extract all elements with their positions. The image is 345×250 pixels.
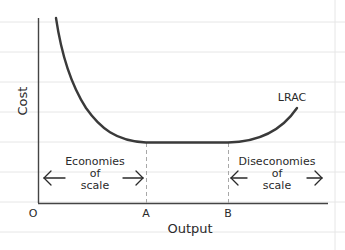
background-grid bbox=[0, 0, 345, 250]
x-axis-label: Output bbox=[167, 221, 212, 236]
arrow-left-icon bbox=[231, 171, 247, 185]
lrac-label: LRAC bbox=[278, 91, 307, 104]
lrac-diagram: Cost LRAC Economies of scale Diseconomie… bbox=[0, 0, 345, 250]
arrow-left-icon bbox=[44, 171, 65, 185]
economies-of-scale-annotation: Economies of scale bbox=[44, 155, 143, 192]
diseconomies-of-scale-annotation: Diseconomies of scale bbox=[231, 155, 322, 192]
origin-label: O bbox=[29, 207, 38, 220]
arrow-right-icon bbox=[123, 171, 143, 185]
y-axis-label: Cost bbox=[15, 87, 30, 116]
lrac-curve bbox=[56, 18, 297, 143]
arrow-right-icon bbox=[307, 171, 322, 185]
point-a-label: A bbox=[142, 207, 150, 220]
economies-line-3: scale bbox=[81, 179, 110, 192]
diseconomies-line-3: scale bbox=[263, 179, 292, 192]
point-b-label: B bbox=[224, 207, 232, 220]
